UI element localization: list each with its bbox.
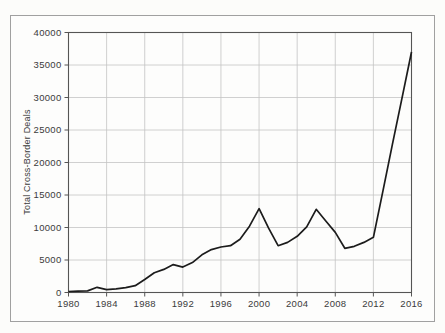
y-tick-label: 40000 [34, 27, 62, 38]
x-tick-label: 2016 [400, 298, 422, 309]
y-tick-label: 5000 [39, 254, 61, 265]
y-tick-label: 30000 [34, 92, 62, 103]
x-tick-label: 2000 [248, 298, 270, 309]
y-axis-title: Total Cross-Border Deals [22, 109, 32, 215]
y-tick-label: 20000 [34, 157, 62, 168]
y-tick-label: 35000 [34, 59, 62, 70]
y-tick-label: 0 [56, 287, 62, 298]
x-tick-label: 2008 [324, 298, 346, 309]
cross-border-deals-line-chart: 1980198419881992199620002004200820122016… [0, 0, 445, 333]
x-tick-label: 2012 [362, 298, 384, 309]
y-tick-label: 15000 [34, 189, 62, 200]
x-tick-label: 1996 [210, 298, 232, 309]
x-tick-label: 2004 [286, 298, 308, 309]
y-tick-label: 10000 [34, 222, 62, 233]
figure-page: 1980198419881992199620002004200820122016… [0, 0, 445, 333]
figure-frame [11, 16, 435, 322]
x-tick-label: 1992 [172, 298, 194, 309]
x-tick-label: 1988 [134, 298, 156, 309]
y-tick-label: 25000 [34, 124, 62, 135]
x-tick-label: 1980 [57, 298, 79, 309]
x-tick-label: 1984 [95, 298, 117, 309]
